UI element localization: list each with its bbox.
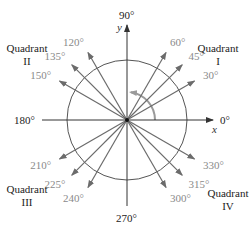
label-90-degrees: 90° [119, 9, 134, 21]
quadrant-II-numeral: II [23, 55, 31, 67]
label-315-degrees: 315° [189, 178, 210, 190]
label-330-degrees: 330° [203, 159, 224, 171]
label-60-degrees: 60° [170, 36, 185, 48]
label-135-degrees: 135° [44, 50, 65, 62]
quadrant-III-label: Quadrant III [7, 183, 48, 208]
y-axis-label: y [116, 21, 122, 33]
label-300-degrees: 300° [170, 192, 191, 204]
origin-point [125, 118, 129, 122]
label-30-degrees: 30° [203, 69, 218, 81]
quadrant-IV-numeral: IV [222, 200, 234, 212]
quadrant-IV-word: Quadrant [208, 187, 249, 199]
label-180-degrees: 180° [14, 114, 35, 126]
quadrant-III-word: Quadrant [7, 183, 48, 195]
label-150-degrees: 150° [30, 69, 51, 81]
quadrant-III-numeral: III [22, 196, 33, 208]
label-270-degrees: 270° [116, 212, 137, 224]
label-225-degrees: 225° [44, 178, 65, 190]
quadrant-II-word: Quadrant [7, 42, 48, 54]
quadrant-II-label: Quadrant II [7, 42, 48, 67]
x-axis-label: x [211, 123, 217, 135]
quadrant-IV-label: Quadrant IV [208, 187, 249, 212]
quadrant-I-numeral: I [216, 55, 220, 67]
label-210-degrees: 210° [30, 159, 51, 171]
label-240-degrees: 240° [63, 192, 84, 204]
quadrant-I-word: Quadrant [198, 42, 239, 54]
label-0-degrees: 0° [220, 114, 230, 126]
label-120-degrees: 120° [63, 36, 84, 48]
angle-diagram: 30°45°60°120°135°150°210°225°240°300°315… [0, 0, 251, 231]
